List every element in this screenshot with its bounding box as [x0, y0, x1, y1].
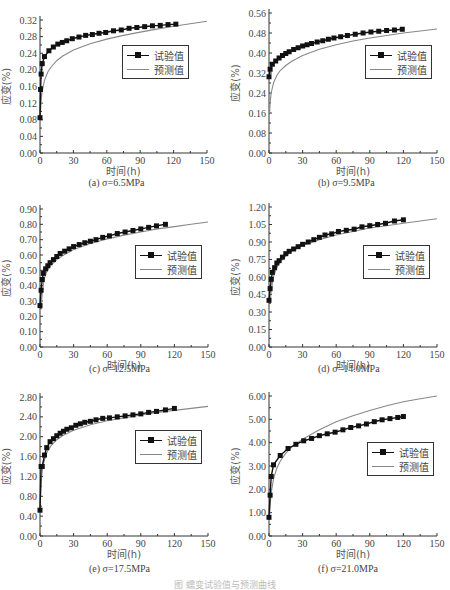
chart-svg: 0.000.040.080.120.160.200.240.280.320306…: [0, 0, 225, 195]
data-point-marker: [115, 414, 120, 419]
y-tick-label: 0.40: [249, 48, 267, 59]
y-tick-label: 0.20: [20, 311, 38, 322]
data-point-marker: [115, 231, 120, 236]
y-tick-label: 0.48: [249, 28, 267, 39]
x-tick-label: 120: [396, 155, 411, 166]
data-point-marker: [326, 37, 331, 42]
data-point-marker: [267, 298, 272, 303]
data-point-marker: [40, 464, 45, 469]
data-point-marker: [300, 242, 305, 247]
x-tick-label: 90: [135, 155, 145, 166]
y-tick-label: 0.00: [249, 148, 267, 159]
y-tick-label: 0.56: [249, 8, 267, 19]
data-point-marker: [395, 415, 400, 420]
panel-caption: (c) σ=12.5MPa: [89, 363, 150, 374]
data-point-marker: [383, 221, 388, 226]
data-point-marker: [158, 23, 163, 28]
chart-legend: 试验值 预测值: [363, 245, 430, 279]
data-point-marker: [103, 30, 108, 35]
data-point-marker: [46, 48, 51, 53]
y-tick-label: 1.20: [20, 471, 38, 482]
data-point-marker: [83, 33, 88, 38]
panel-caption-prefix: (e): [89, 563, 103, 574]
y-tick-label: 0.04: [20, 131, 38, 142]
data-point-marker: [94, 417, 99, 422]
y-tick-label: 0.00: [20, 148, 38, 159]
legend-item-experimental: 试验值: [368, 248, 425, 262]
x-tick-label: 0: [267, 155, 272, 166]
chart-legend: 试验值 预测值: [122, 45, 189, 79]
y-tick-label: 0.60: [249, 272, 267, 283]
data-point-marker: [62, 249, 67, 254]
data-point-marker: [172, 406, 177, 411]
y-tick-label: 0.75: [249, 254, 267, 265]
data-point-marker: [166, 22, 171, 27]
data-point-marker: [94, 237, 99, 242]
legend-item-predicted: 预测值: [127, 62, 184, 76]
data-point-marker: [293, 442, 298, 447]
panel-caption: (d) σ=14.0MPa: [318, 363, 380, 374]
data-point-marker: [39, 72, 44, 77]
x-tick-label: 120: [166, 155, 181, 166]
x-tick-label: 150: [200, 155, 215, 166]
data-point-marker: [340, 427, 345, 432]
data-point-marker: [39, 288, 44, 293]
legend-label-predicted: 预测值: [167, 447, 197, 462]
data-point-marker: [41, 271, 46, 276]
gray-line-icon: [370, 65, 392, 73]
data-point-marker: [173, 22, 178, 27]
panel-caption-sigma: σ=17.5MPa: [103, 563, 150, 574]
data-point-marker: [376, 29, 381, 34]
y-tick-label: 0.60: [20, 250, 38, 261]
data-point-marker: [353, 32, 358, 37]
x-tick-label: 60: [331, 155, 341, 166]
data-point-marker: [40, 277, 45, 282]
data-point-marker: [359, 224, 364, 229]
data-point-marker: [291, 247, 296, 252]
legend-item-predicted: 预测值: [372, 459, 429, 473]
data-point-marker: [40, 61, 45, 66]
x-tick-label: 0: [38, 155, 43, 166]
data-point-marker: [267, 74, 272, 79]
chart-svg: 0.000.100.200.300.400.500.600.700.800.90…: [0, 190, 225, 385]
data-point-marker: [130, 228, 135, 233]
data-point-marker: [38, 87, 43, 92]
legend-label-predicted: 预测值: [395, 262, 425, 277]
data-point-marker: [111, 28, 116, 33]
data-point-marker: [368, 30, 373, 35]
chart-svg: 0.000.080.160.240.320.400.480.5603060901…: [225, 0, 450, 195]
data-point-marker: [271, 462, 276, 467]
data-point-marker: [331, 36, 336, 41]
data-point-marker: [88, 239, 93, 244]
x-tick-label: 90: [365, 155, 375, 166]
data-point-marker: [272, 265, 277, 270]
chart-panel-c: 0.000.100.200.300.400.500.600.700.800.90…: [0, 190, 225, 385]
data-point-marker: [317, 433, 322, 438]
legend-label-experimental: 试验值: [167, 433, 197, 448]
data-point-marker: [392, 28, 397, 33]
data-point-marker: [70, 36, 75, 41]
y-tick-label: 0.00: [249, 342, 267, 353]
data-point-marker: [287, 49, 292, 54]
y-tick-label: 1.20: [249, 202, 267, 213]
figure-caption: 图 蠕变试验值与预测曲线: [0, 578, 450, 590]
data-point-marker: [400, 27, 405, 32]
data-point-marker: [44, 445, 49, 450]
y-tick-label: 0.00: [20, 342, 38, 353]
y-tick-label: 2.00: [20, 431, 38, 442]
data-point-marker: [138, 226, 143, 231]
chart-svg: 0.001.002.003.004.005.006.00030609012015…: [225, 380, 450, 575]
y-tick-label: 0.24: [20, 48, 38, 59]
data-point-marker: [401, 414, 406, 419]
data-point-marker: [315, 40, 320, 45]
x-tick-label: 60: [331, 349, 341, 360]
data-point-marker: [323, 233, 328, 238]
x-axis-label: 时间(h): [107, 548, 141, 560]
data-point-marker: [296, 45, 301, 50]
x-tick-label: 120: [167, 349, 182, 360]
y-axis-label: 应变(%): [229, 64, 241, 101]
data-point-marker: [306, 240, 311, 245]
panel-caption: (b) σ=9.5MPa: [318, 177, 375, 188]
data-point-marker: [268, 493, 273, 498]
gray-line-icon: [368, 265, 390, 273]
